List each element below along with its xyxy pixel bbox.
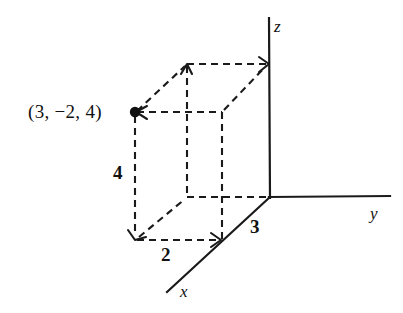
dashed-box-edges <box>135 64 268 240</box>
edge-top-left-receding <box>137 66 185 111</box>
coordinate-axes <box>167 18 390 292</box>
x-axis-line <box>167 197 270 292</box>
y-axis-label: y <box>370 205 378 222</box>
arrowhead-down-left-bottom <box>128 230 146 240</box>
edge-bottom-left-receding <box>139 199 185 237</box>
x-axis-label: x <box>180 283 188 300</box>
plotted-point-marker <box>130 107 140 117</box>
z-axis-label: z <box>274 18 281 35</box>
y-axis-line <box>269 196 390 197</box>
depth-measure-label: 2 <box>161 245 171 264</box>
height-measure-label: 4 <box>113 163 123 182</box>
width-measure-label: 3 <box>250 217 260 236</box>
figure-canvas <box>0 0 403 313</box>
coordinate-figure: (3, −2, 4) z y x 4 2 3 <box>0 0 403 313</box>
z-axis-line <box>269 18 270 198</box>
point-coordinate-label: (3, −2, 4) <box>28 102 102 121</box>
